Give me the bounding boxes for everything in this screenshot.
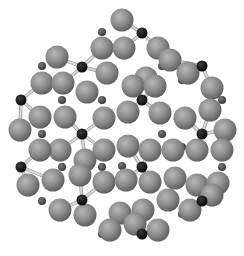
black-atom (77, 195, 88, 206)
large-atom (113, 37, 136, 60)
black-atom (197, 129, 208, 140)
large-atom (174, 107, 197, 130)
large-atom (29, 139, 52, 162)
large-atom (147, 219, 170, 242)
large-atom (117, 101, 140, 124)
large-atom (69, 164, 92, 187)
large-atom (91, 37, 114, 60)
large-atom (164, 167, 187, 190)
small-atom (58, 163, 66, 171)
black-atom (197, 196, 208, 207)
large-atom (9, 119, 32, 142)
large-atom (29, 106, 52, 129)
large-atom (211, 139, 234, 162)
large-atom (139, 171, 162, 194)
black-atom (137, 162, 148, 173)
large-atom (46, 46, 69, 69)
large-atom (122, 75, 145, 98)
black-atom (16, 162, 27, 173)
large-atom (76, 81, 99, 104)
large-atom (93, 171, 116, 194)
large-atom (214, 119, 237, 142)
large-atom (199, 99, 222, 122)
large-atom (49, 139, 72, 162)
small-atom (98, 163, 106, 171)
small-atom (38, 62, 46, 70)
large-atom (17, 174, 40, 197)
large-atom (117, 135, 140, 158)
large-atom (49, 199, 72, 222)
large-atom (177, 62, 200, 85)
large-atom (149, 102, 172, 125)
black-atom (197, 61, 208, 72)
large-atom (111, 9, 134, 32)
large-atom (139, 139, 162, 162)
cluster-svg (0, 0, 244, 256)
large-atom (93, 107, 116, 130)
black-atom (137, 95, 148, 106)
small-atom (218, 96, 226, 104)
black-atom (137, 229, 148, 240)
large-atom (144, 75, 167, 98)
large-atom (99, 219, 122, 242)
small-atom (38, 197, 46, 205)
small-atom (218, 163, 226, 171)
small-atom (98, 28, 106, 36)
large-atom (115, 169, 138, 192)
large-atom (74, 204, 97, 227)
small-atom (98, 96, 106, 104)
large-atom (186, 139, 209, 162)
large-atom (52, 72, 75, 95)
atomic-cluster-figure (0, 0, 244, 256)
black-atom (137, 28, 148, 39)
black-atom (77, 62, 88, 73)
large-atom (42, 169, 65, 192)
small-atom (38, 130, 46, 138)
large-atom (96, 62, 119, 85)
large-atom (162, 139, 185, 162)
large-atoms-layer (9, 9, 237, 242)
small-atom (58, 96, 66, 104)
large-atom (157, 189, 180, 212)
black-atom (77, 129, 88, 140)
large-atom (93, 139, 116, 162)
large-atom (201, 77, 224, 100)
small-atom (158, 130, 166, 138)
black-atom (16, 95, 27, 106)
large-atom (54, 106, 77, 129)
large-atom (31, 72, 54, 95)
